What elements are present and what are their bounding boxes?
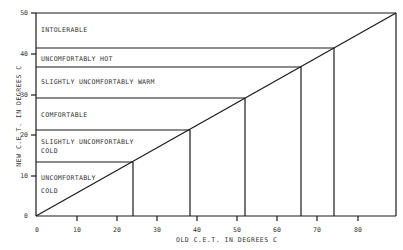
zone-label-slightly-cold-1: SLIGHTLY UNCOMFORTABLY bbox=[41, 138, 134, 147]
x-tick-20: 20 bbox=[113, 226, 121, 234]
x-axis-title: OLD C.E.T. IN DEGREES C bbox=[176, 236, 278, 244]
zone-label-comfortable: COMFORTABLE bbox=[41, 111, 87, 120]
zone-label-uncomfortably-hot: UNCOMFORTABLY HOT bbox=[41, 55, 113, 64]
conversion-line bbox=[36, 13, 396, 216]
x-tick-30: 30 bbox=[153, 226, 161, 234]
y-tick-0: 0 bbox=[24, 212, 28, 220]
x-tick-50: 50 bbox=[233, 226, 241, 234]
x-tick-10: 10 bbox=[73, 226, 81, 234]
y-tick-50: 50 bbox=[20, 9, 28, 17]
y-axis-title: NEW C.E.T. IN DEGREES C bbox=[15, 65, 23, 167]
x-tick-40: 40 bbox=[193, 226, 201, 234]
cet-conversion-chart: INTOLERABLE UNCOMFORTABLY HOT SLIGHTLY U… bbox=[0, 0, 403, 250]
zone-label-uncomfortably-cold-1: UNCOMFORTABLY bbox=[41, 174, 96, 183]
zone-label-slightly-warm: SLIGHTLY UNCOMFORTABLY WARM bbox=[41, 78, 155, 87]
x-tick-0: 0 bbox=[35, 226, 39, 234]
y-tick-40: 40 bbox=[20, 50, 28, 58]
zone-label-uncomfortably-cold-2: COLD bbox=[41, 187, 58, 196]
zone-label-slightly-cold-2: COLD bbox=[41, 147, 58, 156]
y-tick-10: 10 bbox=[20, 172, 28, 180]
zone-label-intolerable: INTOLERABLE bbox=[41, 26, 87, 35]
x-tick-80: 80 bbox=[354, 226, 362, 234]
chart-plot bbox=[0, 0, 403, 250]
x-tick-60: 60 bbox=[273, 226, 281, 234]
x-tick-70: 70 bbox=[313, 226, 321, 234]
